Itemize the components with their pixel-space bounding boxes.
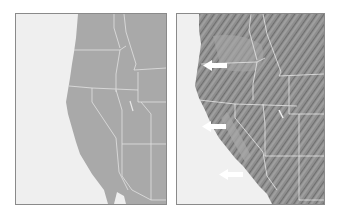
relief-map-panel — [176, 13, 325, 205]
political-map — [16, 14, 166, 204]
relief-map — [177, 14, 324, 204]
political-map-panel — [15, 13, 167, 205]
